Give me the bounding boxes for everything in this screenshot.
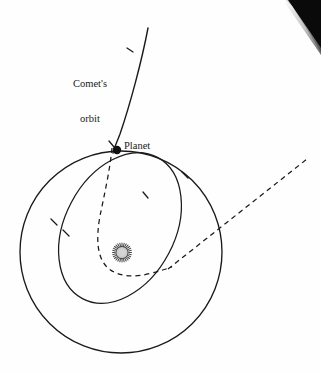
comet-orbit-label-line1: Comet's: [60, 78, 120, 90]
planet-label: Planet: [124, 140, 150, 152]
comet-orbit-label-line2: orbit: [60, 113, 120, 125]
comet-orbit-label: Comet's orbit: [60, 54, 120, 148]
comet-orbit-diagram: Comet's orbit Planet: [0, 0, 321, 373]
diagram-background: [0, 0, 321, 373]
diagram-canvas: [0, 0, 321, 373]
